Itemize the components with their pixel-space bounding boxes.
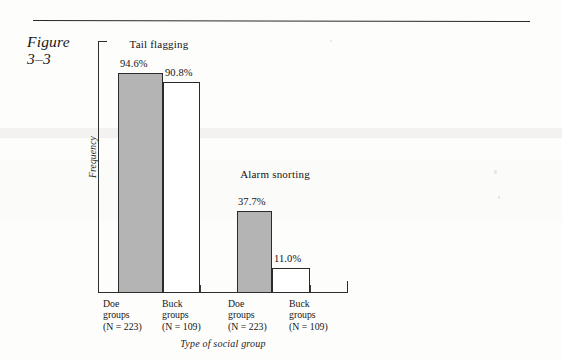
category-sample-size: (N = 223) <box>103 321 142 332</box>
category-label-line-1: Doe <box>103 298 142 309</box>
figure-page: Figure 3–3 Frequency Tail flagging 94.6%… <box>0 0 562 361</box>
y-axis-line <box>98 41 99 293</box>
bar-buck-alarm-snorting <box>272 268 310 293</box>
category-sample-size: (N = 109) <box>289 321 328 332</box>
category-label-line-1: Buck <box>162 298 201 309</box>
category-label-line-1: Doe <box>228 298 267 309</box>
category-label-line-1: Buck <box>289 298 328 309</box>
bar-chart-plot: Frequency Tail flagging 94.6% 90.8% Alar… <box>0 0 562 361</box>
x-axis-caption: Type of social group <box>0 338 446 349</box>
bar-value-label: 11.0% <box>274 253 301 264</box>
category-label-buck-1: Buck groups (N = 109) <box>162 298 201 332</box>
category-label-line-2: groups <box>103 309 142 320</box>
group-title-tail-flagging: Tail flagging <box>118 38 200 50</box>
x-axis-end-tick <box>347 281 348 292</box>
y-axis-label: Frequency <box>88 136 98 178</box>
group-title-alarm-snorting: Alarm snorting <box>230 168 320 180</box>
category-label-line-2: groups <box>228 309 267 320</box>
bar-value-label: 37.7% <box>238 196 266 207</box>
category-sample-size: (N = 223) <box>228 321 267 332</box>
category-label-doe-2: Doe groups (N = 223) <box>228 298 267 332</box>
bar-value-label: 90.8% <box>165 67 193 78</box>
bar-doe-tail-flagging <box>118 73 163 293</box>
bar-buck-tail-flagging <box>163 82 200 293</box>
axis-tick <box>200 285 201 292</box>
bar-doe-alarm-snorting <box>237 211 272 293</box>
y-axis-top-tick <box>98 41 107 42</box>
category-label-doe-1: Doe groups (N = 223) <box>103 298 142 332</box>
category-label-buck-2: Buck groups (N = 109) <box>289 298 328 332</box>
category-label-line-2: groups <box>289 309 328 320</box>
bar-value-label: 94.6% <box>120 58 148 69</box>
category-sample-size: (N = 109) <box>162 321 201 332</box>
axis-tick <box>310 285 311 292</box>
category-label-line-2: groups <box>162 309 201 320</box>
